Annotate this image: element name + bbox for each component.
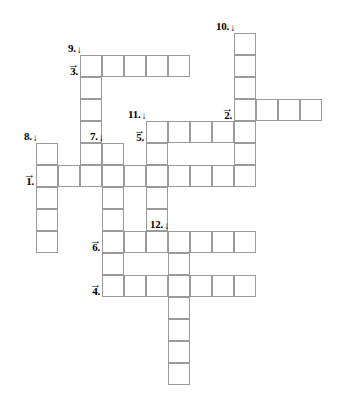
grid-cell[interactable]: [212, 165, 234, 187]
grid-cell[interactable]: [168, 165, 190, 187]
grid-cell[interactable]: [146, 231, 168, 253]
grid-cell[interactable]: [58, 165, 80, 187]
grid-cell[interactable]: [168, 55, 190, 77]
grid-cell[interactable]: [102, 55, 124, 77]
grid-cell[interactable]: [124, 231, 146, 253]
grid-cell[interactable]: [256, 99, 278, 121]
grid-cell[interactable]: [146, 55, 168, 77]
grid-cell[interactable]: [36, 231, 58, 253]
grid-cell[interactable]: [190, 165, 212, 187]
grid-cell[interactable]: [146, 121, 168, 143]
clue-marker-9-down[interactable]: 9.↓: [68, 43, 82, 54]
arrow-down-icon: ↓: [99, 132, 104, 143]
arrow-right-icon: →: [23, 169, 35, 180]
grid-cell[interactable]: [168, 297, 190, 319]
arrow-down-icon: ↓: [142, 110, 147, 121]
grid-cell[interactable]: [190, 121, 212, 143]
grid-cell[interactable]: [146, 165, 168, 187]
grid-cell[interactable]: [234, 77, 256, 99]
grid-cell[interactable]: [168, 231, 190, 253]
clue-marker-4-across[interactable]: 4.→: [86, 286, 100, 297]
grid-cell[interactable]: [102, 165, 124, 187]
clue-marker-12-down[interactable]: 12.↓: [150, 219, 169, 230]
arrow-right-icon: →: [221, 103, 233, 114]
arrow-down-icon: ↓: [33, 132, 38, 143]
grid-cell[interactable]: [36, 165, 58, 187]
grid-cell[interactable]: [80, 143, 102, 165]
clue-marker-10-down[interactable]: 10.↓: [216, 21, 235, 32]
grid-cell[interactable]: [36, 209, 58, 231]
clue-marker-3-across[interactable]: 3.→: [64, 66, 78, 77]
clue-number: 12.: [150, 219, 163, 230]
clue-number: 10.: [216, 21, 229, 32]
grid-cell[interactable]: [300, 99, 322, 121]
grid-cell[interactable]: [124, 55, 146, 77]
arrow-right-icon: →: [67, 59, 79, 70]
grid-cell[interactable]: [212, 121, 234, 143]
grid-cell[interactable]: [102, 253, 124, 275]
grid-cell[interactable]: [234, 231, 256, 253]
grid-cell[interactable]: [168, 121, 190, 143]
crossword-puzzle: 1.→2.→3.→4.→5.→6.→7.↓8.↓9.↓10.↓11.↓12.↓: [0, 0, 339, 395]
arrow-down-icon: ↓: [230, 22, 235, 33]
grid-cell[interactable]: [234, 33, 256, 55]
clue-marker-5-across[interactable]: 5.→: [130, 132, 144, 143]
grid-cell[interactable]: [36, 143, 58, 165]
grid-cell[interactable]: [168, 341, 190, 363]
clue-marker-1-across[interactable]: 1.→: [20, 176, 34, 187]
arrow-right-icon: →: [89, 279, 101, 290]
clue-number: 8.: [24, 131, 32, 142]
grid-cell[interactable]: [234, 165, 256, 187]
grid-cell[interactable]: [190, 275, 212, 297]
clue-marker-7-down[interactable]: 7.↓: [90, 131, 104, 142]
grid-cell[interactable]: [36, 187, 58, 209]
grid-cell[interactable]: [102, 231, 124, 253]
clue-number: 7.: [90, 131, 98, 142]
grid-cell[interactable]: [212, 275, 234, 297]
grid-cell[interactable]: [168, 275, 190, 297]
grid-cell[interactable]: [80, 77, 102, 99]
arrow-right-icon: →: [133, 125, 145, 136]
grid-cell[interactable]: [102, 209, 124, 231]
grid-cell[interactable]: [102, 275, 124, 297]
grid-cell[interactable]: [278, 99, 300, 121]
grid-cell[interactable]: [124, 275, 146, 297]
clue-marker-2-across[interactable]: 2.→: [218, 110, 232, 121]
grid-cell[interactable]: [80, 55, 102, 77]
grid-cell[interactable]: [212, 231, 234, 253]
arrow-down-icon: ↓: [77, 44, 82, 55]
grid-cell[interactable]: [168, 253, 190, 275]
grid-cell[interactable]: [124, 165, 146, 187]
grid-cell[interactable]: [234, 121, 256, 143]
grid-cell[interactable]: [234, 143, 256, 165]
arrow-down-icon: ↓: [164, 220, 169, 231]
clue-number: 11.: [128, 109, 141, 120]
grid-cell[interactable]: [234, 55, 256, 77]
grid-cell[interactable]: [146, 143, 168, 165]
grid-cell[interactable]: [146, 275, 168, 297]
grid-cell[interactable]: [234, 99, 256, 121]
grid-cell[interactable]: [190, 231, 212, 253]
grid-cell[interactable]: [102, 143, 124, 165]
grid-cell[interactable]: [80, 165, 102, 187]
grid-cell[interactable]: [168, 319, 190, 341]
clue-marker-11-down[interactable]: 11.↓: [128, 109, 146, 120]
arrow-right-icon: →: [89, 235, 101, 246]
clue-marker-8-down[interactable]: 8.↓: [24, 131, 38, 142]
grid-cell[interactable]: [168, 363, 190, 385]
clue-number: 9.: [68, 43, 76, 54]
grid-cell[interactable]: [146, 187, 168, 209]
grid-cell[interactable]: [102, 187, 124, 209]
grid-cell[interactable]: [234, 275, 256, 297]
clue-marker-6-across[interactable]: 6.→: [86, 242, 100, 253]
grid-cell[interactable]: [80, 99, 102, 121]
